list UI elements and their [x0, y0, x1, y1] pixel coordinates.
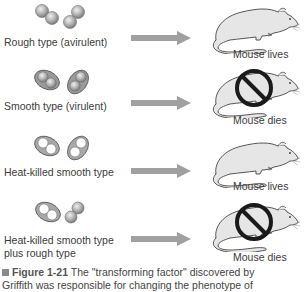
arrow-icon — [131, 232, 191, 246]
outcome-label: Mouse dies — [233, 114, 287, 126]
arrow-icon — [131, 96, 191, 110]
caption-bullet-icon — [2, 269, 9, 276]
mixed-cells-icon — [32, 198, 92, 230]
outcome-label: Mouse lives — [233, 48, 288, 60]
mouse-dead-icon — [208, 66, 300, 118]
row-rough-type: Rough type (avirulent) Mouse lives — [0, 0, 305, 58]
row-heat-killed-plus-rough: Heat-killed smooth type plus rough type … — [0, 196, 305, 264]
mouse-alive-icon — [208, 2, 300, 54]
rough-cells-icon — [32, 2, 88, 30]
outcome-label: Mouse dies — [233, 251, 287, 263]
row-heat-killed-smooth: Heat-killed smooth type Mouse lives — [0, 130, 305, 192]
caption-text-line2: Griffith was responsible for changing th… — [2, 279, 253, 291]
row-label-line: plus rough type — [4, 247, 76, 259]
figure-number: Figure 1-21 — [12, 266, 68, 278]
arrow-icon — [131, 31, 191, 45]
caption-text: The "transforming factor" discovered by — [71, 266, 255, 278]
row-label: Smooth type (virulent) — [4, 100, 107, 112]
figure-caption: Figure 1-21 The "transforming factor" di… — [2, 266, 302, 292]
row-label-line: Heat-killed smooth type — [4, 234, 114, 246]
outcome-label: Mouse lives — [233, 180, 288, 192]
heat-killed-cells-icon — [32, 132, 92, 164]
row-smooth-type: Smooth type (virulent) Mouse dies — [0, 62, 305, 126]
arrow-icon — [131, 164, 191, 178]
mouse-dead-icon — [208, 200, 300, 252]
smooth-cells-icon — [32, 66, 92, 98]
row-label: Heat-killed smooth type — [4, 166, 114, 178]
row-label: Heat-killed smooth type plus rough type — [4, 234, 114, 260]
row-label: Rough type (avirulent) — [4, 36, 107, 48]
